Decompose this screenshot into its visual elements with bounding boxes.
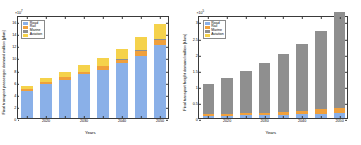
y-axis-label-freight: Final transport freight demand million [… — [180, 0, 190, 145]
bar-segment-marine — [334, 12, 346, 107]
legend-item-aviation[interactable]: Aviation — [23, 33, 42, 37]
bar-2015 — [21, 86, 33, 118]
bar-segment-road — [116, 63, 128, 118]
x-axis-label-freight: Years — [181, 130, 361, 135]
chart-legend[interactable]: RoadRailMarineAviation — [203, 20, 227, 40]
bar-segment-road — [78, 74, 90, 118]
bar-2050 — [154, 24, 166, 118]
bar-2035 — [97, 58, 109, 118]
bar-2020 — [40, 78, 52, 118]
bar-segment-aviation — [97, 58, 109, 66]
x-tick-label: 2020 — [42, 118, 50, 123]
bar-segment-road — [40, 84, 52, 118]
legend-label: Aviation — [30, 33, 42, 37]
bar-segment-marine — [203, 84, 215, 115]
bar-segment-marine — [315, 31, 327, 109]
bar-2040 — [296, 44, 308, 118]
chart-panel-freight: Final transport freight demand million [… — [181, 0, 361, 145]
legend-swatch-marine-icon — [23, 30, 28, 33]
legend-swatch-rail-icon — [23, 26, 28, 29]
plot-area-freight: 00.511.522.532020203020402050RoadRailMar… — [198, 16, 348, 119]
y-axis-exponent-freight: ×105 — [197, 9, 205, 15]
legend-swatch-road-icon — [205, 22, 210, 25]
legend-swatch-road-icon — [23, 22, 28, 25]
bar-segment-marine — [296, 44, 308, 111]
figure-two-panel: Final transport passenger demand million… — [0, 0, 361, 145]
x-tick-label: 2040 — [298, 118, 306, 123]
bar-2030 — [78, 65, 90, 118]
bar-2025 — [59, 72, 71, 118]
bar-segment-road — [97, 70, 109, 118]
x-tick-label: 2020 — [223, 118, 231, 123]
x-axis-label-passenger: Years — [0, 130, 181, 135]
x-tick-label: 2040 — [118, 118, 126, 123]
legend-swatch-aviation-icon — [23, 34, 28, 37]
bar-2025 — [240, 71, 252, 118]
bar-2020 — [221, 78, 233, 118]
x-tick-label: 2050 — [156, 118, 164, 123]
chart-panel-passenger: Final transport passenger demand million… — [0, 0, 181, 145]
y-axis-label-passenger: Final transport passenger demand million… — [0, 0, 9, 145]
bar-2035 — [278, 54, 290, 118]
bar-segment-aviation — [135, 37, 147, 50]
legend-swatch-aviation-icon — [205, 34, 210, 37]
bar-segment-marine — [259, 63, 271, 112]
legend-swatch-rail-icon — [205, 26, 210, 29]
bar-segment-aviation — [154, 24, 166, 39]
bar-2040 — [116, 49, 128, 118]
y-axis-exponent-passenger: ×107 — [15, 9, 23, 15]
bar-2045 — [315, 31, 327, 118]
x-tick-label: 2030 — [80, 118, 88, 123]
bar-segment-road — [59, 80, 71, 118]
legend-item-aviation[interactable]: Aviation — [205, 33, 224, 37]
bar-segment-aviation — [116, 49, 128, 59]
bar-segment-marine — [278, 54, 290, 112]
x-tick-label: 2050 — [336, 118, 344, 123]
bar-segment-marine — [240, 71, 252, 113]
x-tick-label: 2030 — [261, 118, 269, 123]
legend-label: Aviation — [211, 33, 223, 37]
bar-2030 — [259, 63, 271, 118]
bar-2045 — [135, 37, 147, 118]
bar-2015 — [203, 84, 215, 119]
chart-legend[interactable]: RoadRailMarineAviation — [21, 20, 45, 40]
bar-segment-road — [154, 45, 166, 118]
bar-2050 — [334, 12, 346, 118]
bar-segment-marine — [221, 78, 233, 114]
legend-swatch-marine-icon — [205, 30, 210, 33]
bar-segment-road — [21, 91, 33, 118]
plot-area-passenger: 02468101214162020203020402050RoadRailMar… — [17, 16, 169, 119]
bar-segment-road — [135, 56, 147, 118]
